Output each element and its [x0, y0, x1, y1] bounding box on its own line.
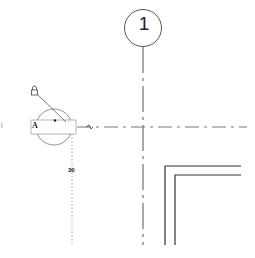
grid-bubble-label: 1: [129, 13, 159, 35]
lock-leader-line: [36, 93, 66, 122]
drawing-canvas[interactable]: [0, 0, 255, 258]
elevation-tag-label: A: [32, 121, 38, 130]
wall-corner[interactable]: [165, 166, 241, 245]
lock-icon[interactable]: [32, 86, 38, 95]
temporary-dimension-value[interactable]: 30: [68, 167, 75, 173]
edge-mark: |: [1, 122, 3, 128]
